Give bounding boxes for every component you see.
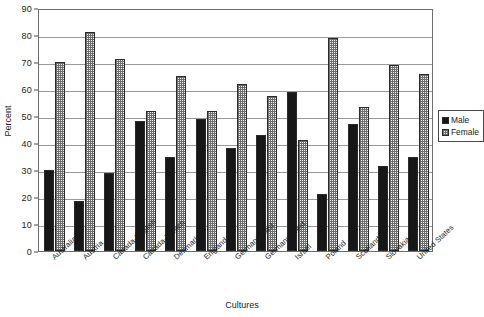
legend-label: Female	[451, 128, 479, 136]
bar-group	[44, 10, 65, 251]
bar-male	[44, 170, 54, 251]
legend-label: Male	[451, 116, 469, 124]
bar-group	[165, 10, 186, 251]
bar-group	[226, 10, 247, 251]
bar-group	[135, 10, 156, 251]
y-axis-tick-label: 40	[22, 139, 32, 149]
bar-female	[419, 74, 429, 251]
bar-male	[348, 124, 358, 251]
bar-group	[256, 10, 277, 251]
bar-group	[74, 10, 95, 251]
y-axis: 0102030405060708090	[0, 9, 38, 252]
y-axis-tick-label: 70	[22, 58, 32, 68]
bar-group	[408, 10, 429, 251]
bar-male	[196, 119, 206, 251]
bar-male	[408, 157, 418, 252]
bar-female	[237, 84, 247, 251]
legend-item: Female	[442, 126, 479, 138]
bar-female	[207, 111, 217, 251]
bar-female	[328, 38, 338, 251]
x-axis-title: Cultures	[0, 300, 484, 310]
y-axis-tick-label: 60	[22, 85, 32, 95]
legend-swatch-female	[442, 129, 449, 136]
y-axis-tick-label: 30	[22, 166, 32, 176]
bar-female	[298, 140, 308, 251]
legend-swatch-male	[442, 117, 449, 124]
bar-group	[104, 10, 125, 251]
bar-female	[115, 59, 125, 251]
bar-group	[196, 10, 217, 251]
plot-area	[38, 9, 433, 252]
legend-item: Male	[442, 114, 479, 126]
y-axis-tick-label: 80	[22, 31, 32, 41]
bar-male	[104, 173, 114, 251]
bar-chart: Percent 0102030405060708090 AustraliaAus…	[0, 0, 484, 317]
x-axis-tick-labels: AustraliaAustriaCanada-EnglishCanada-Fre…	[38, 253, 433, 299]
bar-female	[85, 32, 95, 251]
bar-female	[55, 62, 65, 251]
bar-group	[287, 10, 308, 251]
y-axis-tick-label: 50	[22, 112, 32, 122]
y-axis-tick-label: 20	[22, 193, 32, 203]
bar-female	[359, 107, 369, 251]
y-axis-tick-label: 0	[27, 247, 32, 257]
bar-male	[317, 194, 327, 251]
bar-female	[389, 65, 399, 251]
y-axis-tick-label: 10	[22, 220, 32, 230]
y-axis-tick-label: 90	[22, 4, 32, 14]
chart-legend: MaleFemale	[438, 110, 484, 142]
bar-male	[74, 201, 84, 251]
bar-male	[226, 148, 236, 251]
bar-group	[348, 10, 369, 251]
bar-group	[317, 10, 338, 251]
bar-group	[378, 10, 399, 251]
